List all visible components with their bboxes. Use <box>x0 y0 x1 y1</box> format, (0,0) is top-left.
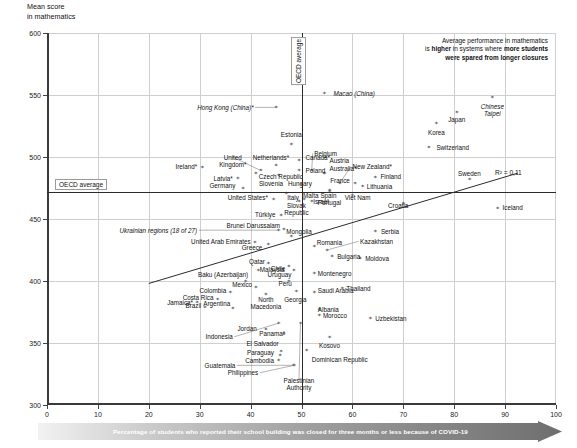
data-point[interactable] <box>373 229 378 234</box>
point-label: Türkiye <box>255 211 276 218</box>
x-tick <box>352 405 353 409</box>
data-point[interactable] <box>304 348 309 353</box>
point-label: Morocco <box>323 312 347 319</box>
data-point[interactable] <box>266 242 271 247</box>
annotation-line-3: were spared from longer closures <box>382 54 548 62</box>
data-point[interactable] <box>467 177 472 182</box>
point-label: Uzbekistan <box>375 315 406 322</box>
point-label: New Zealand* <box>352 163 392 170</box>
x-tick <box>98 405 99 409</box>
data-point[interactable] <box>279 213 284 218</box>
point-label: United Kingdom* <box>219 154 246 168</box>
x-tick <box>200 405 201 409</box>
gridline-vertical <box>149 33 150 405</box>
data-point[interactable] <box>253 285 258 290</box>
data-point[interactable] <box>330 254 335 259</box>
plot-area: Hong Kong (China)*Macao (China)Chinese T… <box>47 33 556 405</box>
data-point[interactable] <box>286 264 291 269</box>
data-point[interactable] <box>241 186 246 191</box>
point-label: Paraguay <box>247 349 274 356</box>
data-point[interactable] <box>353 181 358 186</box>
point-label: Cambodia <box>245 357 274 364</box>
y-tick-label: 550 <box>15 92 41 99</box>
data-point[interactable] <box>368 316 373 321</box>
gridline-vertical <box>200 33 201 405</box>
data-point[interactable] <box>228 290 233 295</box>
point-label: Baku (Azerbaijan) <box>198 271 248 278</box>
point-label: Sweden <box>458 170 481 177</box>
data-point[interactable] <box>312 271 317 276</box>
y-tick-label: 350 <box>15 340 41 347</box>
y-tick <box>43 157 47 158</box>
data-point[interactable] <box>253 171 258 176</box>
point-label: Panama* <box>259 330 285 337</box>
point-label: Greece <box>242 244 263 251</box>
data-point[interactable] <box>327 335 332 340</box>
y-tick-label: 600 <box>15 30 41 37</box>
point-label: Brunei Darussalam <box>227 222 281 229</box>
data-point[interactable] <box>434 121 439 126</box>
point-label: Romania <box>317 239 342 246</box>
data-point[interactable] <box>317 313 322 318</box>
point-label: Austria <box>329 157 349 164</box>
x-tick <box>47 405 48 409</box>
data-point[interactable] <box>230 306 235 311</box>
x-tick-label: 100 <box>550 411 562 418</box>
point-label: Saudi Arabia <box>318 287 354 294</box>
data-point[interactable] <box>490 95 495 100</box>
x-tick-label: 20 <box>145 411 153 418</box>
point-label: Iceland <box>503 204 523 211</box>
point-label: Slovenia <box>259 180 283 187</box>
data-point[interactable] <box>325 248 330 253</box>
data-point[interactable] <box>236 176 241 181</box>
y-tick-label: 500 <box>15 154 41 161</box>
data-point[interactable] <box>373 175 378 180</box>
data-point[interactable] <box>274 163 279 168</box>
x-tick <box>149 405 150 409</box>
point-label: Netherlands* <box>253 154 289 161</box>
point-label: Palestinian Authority <box>284 377 315 391</box>
data-point[interactable] <box>258 168 263 173</box>
point-label: Qatar <box>249 258 265 265</box>
x-tick-label: 0 <box>45 411 49 418</box>
annotation-line-2: is higher in systems where more students <box>382 45 548 53</box>
annotation-box: Average performance in mathematics is hi… <box>382 37 548 62</box>
point-label: El Salvador <box>246 340 278 347</box>
data-point[interactable] <box>292 363 297 368</box>
data-point[interactable] <box>274 105 279 110</box>
x-tick <box>302 405 303 409</box>
data-point[interactable] <box>360 184 365 189</box>
point-label: Slovak Republic <box>284 202 309 216</box>
data-point[interactable] <box>312 290 317 295</box>
data-point[interactable] <box>294 289 299 294</box>
data-point[interactable] <box>289 142 294 147</box>
data-point[interactable] <box>454 110 459 115</box>
point-label: Chinese Taipei <box>481 103 504 117</box>
point-label: Kazakhstan <box>360 238 393 245</box>
data-point[interactable] <box>322 91 327 96</box>
y-tick-label: 450 <box>15 216 41 223</box>
oecd-average-y-label: OECD average <box>55 179 107 190</box>
x-tick-label: 60 <box>348 411 356 418</box>
point-label: Mexico <box>232 281 252 288</box>
point-label: Ukrainian regions (18 of 27) <box>119 227 197 234</box>
point-label: Macao (China) <box>334 90 375 97</box>
point-label: Hungary <box>288 180 312 187</box>
point-label: Indonesia <box>205 333 232 340</box>
data-point[interactable] <box>200 165 205 170</box>
x-tick-label: 40 <box>247 411 255 418</box>
oecd-average-vertical-line <box>302 33 304 405</box>
x-tick-label: 90 <box>501 411 509 418</box>
data-point[interactable] <box>276 358 281 363</box>
data-point[interactable] <box>276 321 281 326</box>
y-tick-label: 400 <box>15 278 41 285</box>
y-tick <box>43 33 47 34</box>
y-tick <box>43 219 47 220</box>
data-point[interactable] <box>495 206 500 211</box>
gridline-vertical <box>403 33 404 405</box>
point-label: Georgia <box>284 296 306 303</box>
data-point[interactable] <box>271 197 276 202</box>
data-point[interactable] <box>426 145 431 150</box>
x-tick <box>454 405 455 409</box>
data-point[interactable] <box>292 268 297 273</box>
